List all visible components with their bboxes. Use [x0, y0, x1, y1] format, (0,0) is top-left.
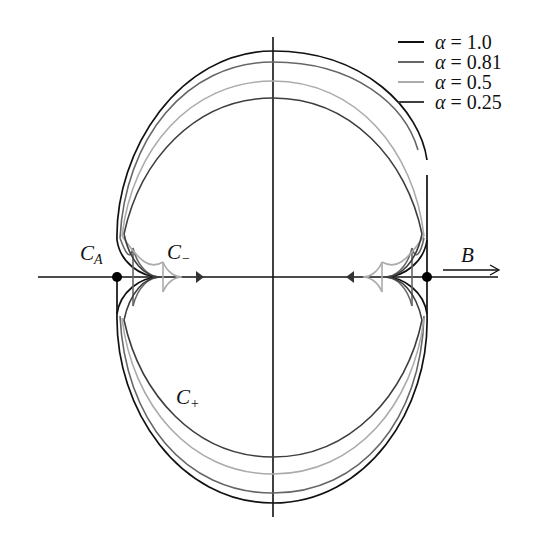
legend-swatch [398, 101, 424, 103]
legend-swatch [398, 41, 424, 43]
label-c-plus-sub: + [190, 396, 199, 411]
label-c-a-main: C [80, 241, 94, 265]
legend-entry-alpha-0-25: α = 0.25 [398, 92, 502, 112]
legend-swatch [398, 61, 424, 63]
legend-entry-alpha-0-5: α = 0.5 [398, 72, 502, 92]
label-c-plus: C+ [176, 387, 199, 411]
label-c-plus-main: C [176, 385, 190, 409]
label-c-a-sub: A [94, 252, 103, 267]
arrowhead-left-icon [346, 271, 354, 283]
legend-entry-alpha-0-81: α = 0.81 [398, 52, 502, 72]
legend-swatch [398, 81, 424, 83]
label-c-minus-main: C [167, 240, 181, 264]
legend-label: = 0.25 [451, 91, 502, 114]
label-c-minus: C− [167, 242, 190, 266]
point-c-a [112, 272, 122, 282]
legend-entry-alpha-1-0: α = 1.0 [398, 32, 502, 52]
arrowhead-right-icon [196, 271, 204, 283]
label-c-minus-sub: − [181, 251, 190, 266]
label-c-a: CA [80, 243, 103, 267]
legend: α = 1.0 α = 0.81 α = 0.5 α = 0.25 [398, 32, 502, 112]
legend-symbol: α [435, 91, 446, 114]
point-right [422, 272, 432, 282]
label-b: B [461, 245, 474, 266]
